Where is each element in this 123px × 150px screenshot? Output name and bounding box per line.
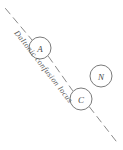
locus-label: Daltonic confusion locus <box>12 28 75 105</box>
node-c-label: C <box>78 95 85 105</box>
diagram-svg: A C N Daltonic confusion locus <box>0 0 123 150</box>
sketch-figure: A C N Daltonic confusion locus <box>0 0 123 150</box>
locus-label-group: Daltonic confusion locus <box>12 28 75 105</box>
locus-segment-bottom <box>90 107 117 141</box>
node-n-label: N <box>97 72 105 82</box>
node-n[interactable]: N <box>90 65 112 87</box>
